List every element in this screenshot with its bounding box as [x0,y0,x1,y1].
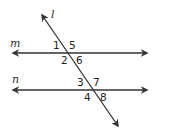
angle-5: 5 [69,39,76,51]
label-n: n [12,73,19,86]
label-l: l [51,8,55,21]
angle-7: 7 [93,76,100,88]
angle-1: 1 [53,39,60,51]
angle-4: 4 [84,91,91,103]
angle-3: 3 [77,76,84,88]
angle-6: 6 [76,54,83,66]
angle-2: 2 [61,54,68,66]
label-m: m [10,37,20,50]
angle-8: 8 [100,91,107,103]
transversal-l [42,15,118,126]
parallel-lines-diagram: l m n 1 5 2 6 3 7 4 8 [0,0,169,139]
